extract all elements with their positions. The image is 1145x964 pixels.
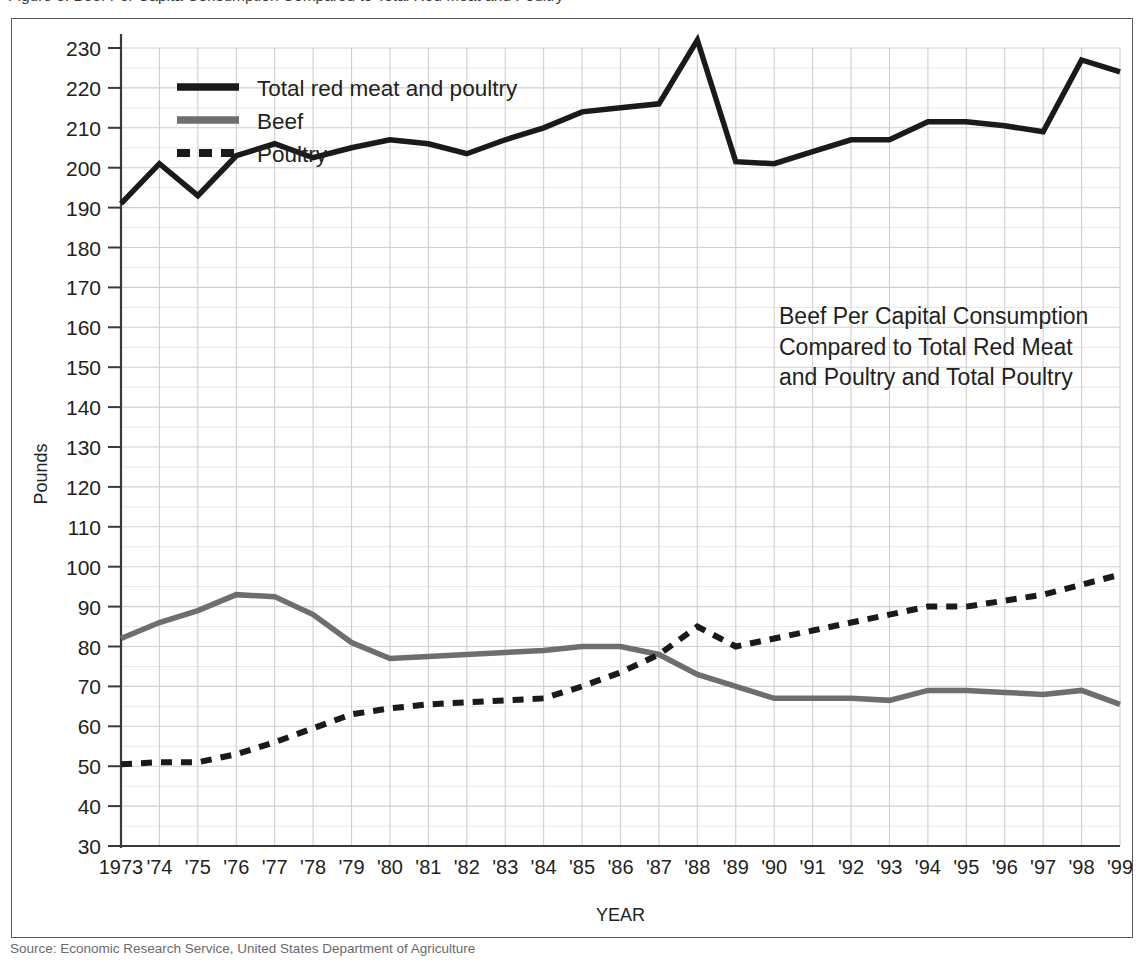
x-tick-label: '81 xyxy=(415,856,441,878)
x-tick-label: '98 xyxy=(1069,856,1095,878)
y-tick-label: 200 xyxy=(66,157,101,180)
legend-label: Beef xyxy=(257,109,304,134)
y-tick-label: 30 xyxy=(78,835,101,858)
major-gridlines xyxy=(121,48,1120,846)
legend-label: Total red meat and poultry xyxy=(257,76,518,101)
y-tick-label: 110 xyxy=(68,516,101,539)
y-tick-label: 130 xyxy=(66,436,101,459)
y-tick-label: 90 xyxy=(78,596,101,619)
consumption-line-chart: 3040506070809010011012013014015016017018… xyxy=(12,19,1134,939)
y-tick-label: 170 xyxy=(66,276,101,299)
bottom-caption-text: Source: Economic Research Service, Unite… xyxy=(10,944,475,956)
x-tick-label: '77 xyxy=(262,856,288,878)
y-tick-label: 70 xyxy=(78,675,101,698)
axis-titles: PoundsYEAR xyxy=(31,443,645,925)
y-tick-label: 190 xyxy=(66,197,101,220)
y-axis-title: Pounds xyxy=(31,443,51,504)
x-tick-label: '79 xyxy=(339,856,365,878)
y-tick-label: 230 xyxy=(66,37,101,60)
x-tick-label: '94 xyxy=(915,856,941,878)
y-tick-label: 180 xyxy=(66,237,101,260)
x-tick-label: '87 xyxy=(646,856,672,878)
x-tick-label: '86 xyxy=(607,856,633,878)
y-tick-label: 100 xyxy=(66,556,101,579)
x-tick-label: '82 xyxy=(454,856,480,878)
bottom-caption-clipped-strip: Source: Economic Research Service, Unite… xyxy=(0,944,1145,964)
x-tick-label: 1973 xyxy=(99,856,144,878)
figure-frame: 3040506070809010011012013014015016017018… xyxy=(11,18,1133,938)
x-tick-label: '88 xyxy=(684,856,710,878)
x-tick-label: '96 xyxy=(992,856,1018,878)
y-tick-label: 60 xyxy=(78,715,101,738)
x-tick-label: '97 xyxy=(1030,856,1056,878)
annotation-text-line: and Poultry and Total Poultry xyxy=(779,364,1073,390)
y-tick-label: 220 xyxy=(66,77,101,100)
y-tick-label: 140 xyxy=(66,396,101,419)
top-caption-clipped-strip: Figure 3. Beef Per Capita Consumption Co… xyxy=(0,0,1145,17)
y-tick-label: 210 xyxy=(66,117,101,140)
x-tick-label: '85 xyxy=(569,856,595,878)
y-tick-label: 150 xyxy=(66,356,101,379)
x-tick-label: '74 xyxy=(146,856,172,878)
top-caption-text: Figure 3. Beef Per Capita Consumption Co… xyxy=(8,0,563,5)
x-tick-label: '89 xyxy=(723,856,749,878)
y-axis: 3040506070809010011012013014015016017018… xyxy=(66,34,121,858)
x-tick-label: '80 xyxy=(377,856,403,878)
y-tick-label: 40 xyxy=(78,795,101,818)
y-tick-label: 80 xyxy=(78,636,101,659)
y-tick-label: 50 xyxy=(78,755,101,778)
y-tick-label: 120 xyxy=(66,476,101,499)
x-tick-label: '78 xyxy=(300,856,326,878)
x-tick-label: '93 xyxy=(876,856,902,878)
y-tick-label: 160 xyxy=(66,316,101,339)
x-tick-label: '83 xyxy=(492,856,518,878)
legend-label: Poultry xyxy=(257,142,328,167)
annotation-text-line: Beef Per Capital Consumption xyxy=(779,303,1088,329)
x-tick-label: '99 xyxy=(1107,856,1133,878)
x-axis-title: YEAR xyxy=(596,905,645,925)
x-tick-label: '84 xyxy=(531,856,557,878)
annotation-text-line: Compared to Total Red Meat xyxy=(779,334,1073,360)
x-tick-label: '90 xyxy=(761,856,787,878)
x-tick-label: '92 xyxy=(838,856,864,878)
x-tick-label: '75 xyxy=(185,856,211,878)
chart-annotation: Beef Per Capital ConsumptionCompared to … xyxy=(779,303,1088,390)
x-tick-label: '91 xyxy=(800,856,826,878)
x-tick-label: '95 xyxy=(953,856,979,878)
x-axis: 1973'74'75'76'77'78'79'80'81'82'83'84'85… xyxy=(99,846,1133,878)
x-tick-label: '76 xyxy=(223,856,249,878)
